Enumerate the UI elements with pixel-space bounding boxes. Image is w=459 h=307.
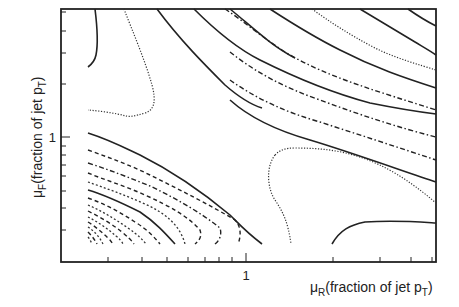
contour-chart: 1 1 μR(fraction of jet pT) μF(fraction o…	[0, 0, 459, 307]
y-axis-ticks	[61, 12, 70, 230]
contour-line	[360, 9, 436, 55]
plot-frame	[61, 9, 436, 262]
x-axis-label: μR(fraction of jet pT)	[310, 279, 433, 298]
y-tick-label-1: 1	[49, 130, 56, 145]
contour-line	[275, 148, 436, 203]
contour-line	[225, 9, 436, 110]
contour-line	[408, 9, 436, 26]
contour-lines	[88, 9, 436, 244]
contour-line	[230, 9, 295, 58]
contour-line	[88, 150, 240, 244]
contour-line	[88, 9, 154, 116]
contour-line	[88, 222, 113, 244]
y-axis-label: μF(fraction of jet pT)	[29, 77, 48, 198]
contour-line	[269, 155, 291, 244]
contour-line	[332, 221, 436, 244]
contour-line	[230, 100, 436, 182]
contour-line	[230, 52, 436, 137]
contour-line	[88, 9, 97, 67]
x-tick-label-1: 1	[242, 268, 249, 283]
contour-line	[88, 237, 92, 244]
contour-line	[88, 133, 262, 244]
x-axis-ticks	[108, 253, 432, 262]
